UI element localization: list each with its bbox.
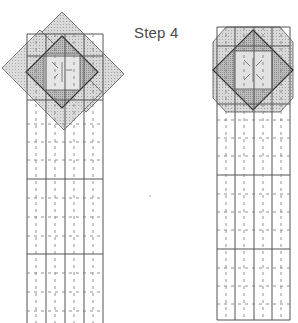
stray-dot [149,195,151,197]
right-figure [213,27,293,320]
diagram-canvas [0,0,298,323]
left-figure [2,12,124,323]
